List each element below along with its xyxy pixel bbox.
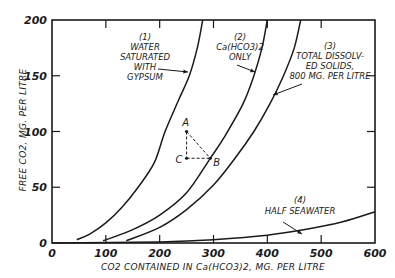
svg-text:TOTAL DISSOLV-: TOTAL DISSOLV- (296, 51, 364, 61)
svg-text:(1): (1) (139, 32, 151, 42)
y-axis-title: FREE CO2, MG. PER LITRE (18, 68, 28, 191)
svg-text:(3): (3) (324, 41, 336, 51)
label-curve-2: (2)Ca(HCO3)2ONLY (216, 32, 264, 62)
svg-text:Ca(HCO3)2: Ca(HCO3)2 (216, 42, 264, 52)
x-tick-label: 0 (48, 247, 56, 260)
x-tick-label: 500 (310, 247, 333, 260)
svg-text:ED SOLIDS,: ED SOLIDS, (306, 61, 355, 71)
x-tick-label: 400 (255, 247, 279, 260)
x-tick-label: 600 (364, 247, 387, 260)
label-curve-3: (3)TOTAL DISSOLV-ED SOLIDS,800 MG. PER L… (289, 41, 371, 81)
x-tick-label: 100 (94, 247, 117, 260)
point-a-label: A (181, 117, 189, 128)
y-tick-label: 200 (24, 14, 47, 27)
label-curve-4: (4)HALF SEAWATER (265, 195, 336, 216)
curve-labels: (1)WATERSATURATEDWITHGYPSUM(2)Ca(HCO3)2O… (120, 32, 371, 234)
y-tick-label: 50 (32, 181, 48, 194)
chart: 0100200300400500600050100150200 (1)WATER… (0, 0, 395, 278)
svg-text:(2): (2) (234, 32, 246, 42)
svg-text:GYPSUM: GYPSUM (127, 72, 164, 82)
svg-text:(4): (4) (294, 195, 306, 205)
x-axis-title: CO2 CONTAINED IN Ca(HCO3)2, MG. PER LITR… (101, 262, 325, 272)
x-tick-label: 300 (202, 247, 225, 260)
point-c-label: C (176, 154, 183, 165)
svg-text:WATER: WATER (130, 42, 160, 52)
y-tick-label: 0 (39, 237, 47, 250)
x-tick-label: 200 (148, 247, 171, 260)
label-curve-1: (1)WATERSATURATEDWITHGYPSUM (120, 32, 171, 82)
svg-text:WITH: WITH (134, 62, 157, 72)
svg-text:HALF SEAWATER: HALF SEAWATER (265, 206, 336, 216)
svg-text:SATURATED: SATURATED (120, 52, 171, 62)
svg-text:ONLY: ONLY (229, 52, 252, 62)
point-b-label: B (213, 157, 220, 168)
svg-text:800 MG. PER LITRE: 800 MG. PER LITRE (289, 71, 371, 81)
abc-triangle: ABC (176, 117, 221, 169)
